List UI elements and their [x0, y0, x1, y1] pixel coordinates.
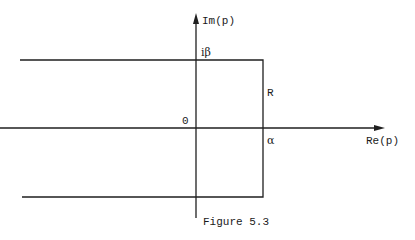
figure-caption: Figure 5.3 — [203, 216, 269, 228]
origin-label: 0 — [182, 115, 189, 127]
alpha-label: α — [267, 134, 275, 147]
contour-diagram: Im(p) iβ R 0 α Re(p) Figure 5.3 — [0, 0, 415, 240]
imaginary-axis-arrow-icon — [193, 13, 199, 24]
top-edge-label: iβ — [201, 46, 211, 59]
real-axis-arrow-icon — [374, 125, 385, 131]
real-axis-label: Re(p) — [366, 135, 399, 147]
imaginary-axis-label: Im(p) — [202, 15, 235, 27]
right-edge-label: R — [267, 87, 274, 99]
